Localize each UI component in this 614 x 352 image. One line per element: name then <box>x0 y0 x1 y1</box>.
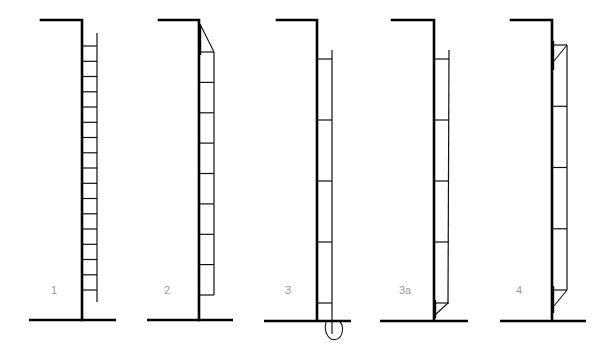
top-brace <box>200 24 214 52</box>
wall <box>511 20 552 320</box>
panel-label: 1 <box>51 284 57 296</box>
panel-3: 3 <box>264 20 351 340</box>
top-brace <box>554 45 567 61</box>
panel-label: 3 <box>285 284 291 296</box>
bottom-brace <box>435 303 448 315</box>
ladder-rungs <box>552 45 567 290</box>
bottom-brace <box>554 290 567 306</box>
footing-blob <box>325 322 342 340</box>
wall <box>392 20 434 320</box>
wall <box>159 20 199 320</box>
ladder-rungs <box>434 59 449 303</box>
panel-3a: 3a <box>380 20 468 321</box>
wall <box>41 20 82 320</box>
ladder-diagram: 1 2 3 3a 4 <box>0 0 614 352</box>
ladder-rungs <box>82 46 97 290</box>
panel-4: 4 <box>500 20 586 321</box>
ladder-rungs <box>317 59 332 303</box>
ladder-rungs <box>199 52 214 295</box>
panel-2: 2 <box>147 20 233 320</box>
panel-label: 4 <box>516 284 522 296</box>
panel-1: 1 <box>29 20 116 320</box>
ladder-rail <box>448 50 449 303</box>
panel-label: 3a <box>399 284 412 296</box>
panel-label: 2 <box>164 284 170 296</box>
wall <box>277 20 317 320</box>
